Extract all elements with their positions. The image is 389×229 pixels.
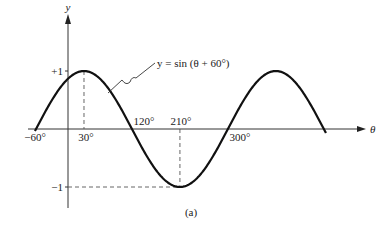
- x-tick-label: 120°: [134, 115, 155, 127]
- x-tick-label: 300°: [229, 131, 250, 143]
- x-axis-arrow-icon: [357, 126, 366, 132]
- x-tick-label: 30°: [78, 131, 93, 143]
- function-label: y = sin (θ + 60°): [157, 57, 230, 70]
- x-tick-label: −60°: [24, 131, 46, 143]
- x-axis-label: θ: [370, 123, 376, 135]
- y-tick-label: +1: [51, 65, 63, 77]
- leader-line: [108, 63, 155, 93]
- y-tick-label: −1: [51, 181, 63, 193]
- y-axis-arrow-icon: [65, 14, 71, 24]
- figure-caption: (a): [185, 206, 198, 219]
- y-axis-label: y: [65, 1, 71, 13]
- x-tick-label: 210°: [170, 115, 191, 127]
- sine-chart: +1−1−60°30°120°210°300°yθy = sin (θ + 60…: [0, 0, 389, 229]
